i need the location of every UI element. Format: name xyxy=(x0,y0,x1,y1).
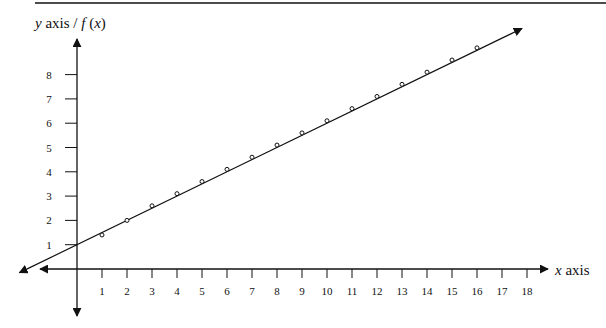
y-tick-label: 2 xyxy=(46,214,52,226)
y-tick-label: 8 xyxy=(46,69,52,81)
y-axis-title-arg-close: ) xyxy=(101,15,106,32)
y-tick-label: 4 xyxy=(46,166,52,178)
x-tick-label: 4 xyxy=(174,285,180,297)
data-point xyxy=(275,143,279,147)
y-axis-title-prefix: axis / xyxy=(45,15,81,31)
x-axis-title-var: x xyxy=(554,262,562,278)
y-axis-title: y axis / f (x) xyxy=(33,15,106,32)
y-axis-title-func: f xyxy=(81,15,87,31)
y-tick-label: 5 xyxy=(46,142,52,154)
x-tick-label: 8 xyxy=(274,285,280,297)
data-point xyxy=(250,155,254,159)
x-tick-label: 9 xyxy=(299,285,305,297)
x-tick-label: 11 xyxy=(347,285,358,297)
data-point xyxy=(400,82,404,86)
y-tick-label: 7 xyxy=(46,93,52,105)
fit-line xyxy=(20,28,523,272)
x-tick-label: 3 xyxy=(149,285,155,297)
data-point xyxy=(225,167,229,171)
x-axis-title-rest: axis xyxy=(565,262,589,278)
x-tick-label: 2 xyxy=(124,285,130,297)
data-point xyxy=(175,192,179,196)
x-tick-label: 1 xyxy=(99,285,105,297)
x-tick-label: 15 xyxy=(447,285,459,297)
y-tick-label: 1 xyxy=(46,239,52,251)
data-point xyxy=(325,119,329,123)
x-tick-label: 18 xyxy=(522,285,534,297)
x-tick-label: 16 xyxy=(472,285,484,297)
y-tick-label: 3 xyxy=(46,190,52,202)
x-tick-label: 10 xyxy=(322,285,334,297)
x-tick-label: 13 xyxy=(397,285,409,297)
chart: 12345678910111213141516171812345678 y ax… xyxy=(0,0,606,328)
data-point xyxy=(200,180,204,184)
data-point xyxy=(150,204,154,208)
data-point xyxy=(375,94,379,98)
data-point xyxy=(425,70,429,74)
data-point xyxy=(125,218,129,222)
data-point xyxy=(475,46,479,50)
y-axis-title-var: y xyxy=(33,15,42,31)
x-tick-label: 6 xyxy=(224,285,230,297)
x-axis-title: x axis xyxy=(554,262,590,278)
x-tick-label: 14 xyxy=(422,285,434,297)
data-point xyxy=(100,233,104,237)
x-tick-label: 5 xyxy=(199,285,205,297)
data-point xyxy=(450,58,454,62)
x-tick-label: 7 xyxy=(249,285,255,297)
data-point xyxy=(350,107,354,111)
x-tick-label: 17 xyxy=(497,285,509,297)
y-tick-label: 6 xyxy=(46,117,52,129)
x-tick-label: 12 xyxy=(372,285,383,297)
data-point xyxy=(300,131,304,135)
